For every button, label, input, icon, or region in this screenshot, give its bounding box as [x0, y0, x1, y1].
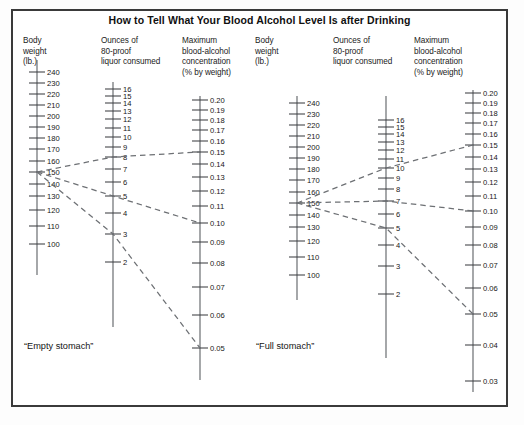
nomogram-figure: How to Tell What Your Blood Alcohol Leve… — [0, 0, 524, 425]
column-header-full-weight: Body weight (lb.) — [255, 36, 278, 68]
column-header-full-bac: Maximum blood-alcohol concentration (% b… — [414, 36, 463, 78]
column-header-empty-weight: Body weight (lb.) — [23, 36, 46, 68]
panel-caption-empty: “Empty stomach” — [24, 341, 93, 351]
column-header-full-ounces: Ounces of 80-proof liquor consumed — [333, 36, 392, 68]
page-title: How to Tell What Your Blood Alcohol Leve… — [11, 14, 508, 26]
panel-caption-full: “Full stomach” — [256, 341, 314, 351]
column-header-empty-ounces: Ounces of 80-proof liquor consumed — [101, 36, 160, 68]
column-header-empty-bac: Maximum blood-alcohol concentration (% b… — [182, 36, 231, 78]
